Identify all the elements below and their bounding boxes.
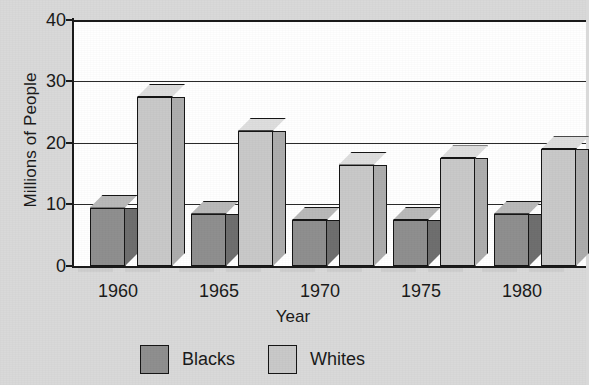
legend-item-whites: Whites — [268, 345, 365, 374]
bar-front-face — [393, 220, 428, 266]
legend-label-blacks: Blacks — [182, 349, 235, 370]
bar-top-face-wrap — [494, 201, 529, 214]
bar-1975-whites — [440, 158, 475, 266]
bar-top-face — [137, 84, 185, 97]
x-tick-label-1970: 1970 — [275, 281, 365, 302]
bar-1980-blacks — [494, 214, 529, 266]
bar-1965-whites — [238, 131, 273, 266]
x-tick-label-1960: 1960 — [73, 281, 163, 302]
bar-top-face-wrap — [393, 207, 428, 220]
chart-legend: Blacks Whites — [0, 345, 586, 385]
bar-top-face — [541, 136, 589, 149]
legend-item-blacks: Blacks — [140, 345, 235, 374]
bar-top-face-wrap — [191, 201, 226, 214]
bar-1970-blacks — [292, 220, 327, 266]
bar-1975-blacks — [393, 220, 428, 266]
bar-top-face — [393, 207, 441, 220]
bar-side-face — [374, 165, 387, 266]
bar-side-face — [273, 131, 286, 266]
bar-side-face — [576, 149, 589, 266]
bar-front-face — [494, 214, 529, 266]
bar-top-face-wrap — [339, 152, 374, 165]
bar-top-face-wrap — [541, 136, 576, 149]
bar-front-face — [292, 220, 327, 266]
legend-label-whites: Whites — [310, 349, 365, 370]
bar-front-face — [541, 149, 576, 266]
x-axis-title: Year — [0, 307, 586, 327]
bar-top-face-wrap — [238, 118, 273, 131]
bar-front-face — [238, 131, 273, 266]
bar-top-face-wrap — [90, 195, 125, 208]
bar-top-face — [339, 152, 387, 165]
legend-swatch-blacks — [140, 345, 169, 374]
bar-top-face — [90, 195, 138, 208]
bar-top-face — [238, 118, 286, 131]
x-tick-label-1980: 1980 — [477, 281, 567, 302]
bar-top-face-wrap — [292, 207, 327, 220]
bar-front-face — [90, 208, 125, 266]
bar-front-face — [440, 158, 475, 266]
x-tick-label-1975: 1975 — [376, 281, 466, 302]
bar-1960-whites — [137, 97, 172, 266]
bar-top-face — [494, 201, 542, 214]
bar-1960-blacks — [90, 208, 125, 266]
bar-top-face — [292, 207, 340, 220]
bar-front-face — [339, 165, 374, 266]
bar-top-face-wrap — [440, 145, 475, 158]
x-tick-label-1965: 1965 — [174, 281, 264, 302]
legend-swatch-whites — [268, 345, 297, 374]
bar-top-face-wrap — [137, 84, 172, 97]
bar-1970-whites — [339, 165, 374, 266]
bar-top-face — [440, 145, 488, 158]
bar-side-face — [172, 97, 185, 266]
bar-1965-blacks — [191, 214, 226, 266]
bar-front-face — [191, 214, 226, 266]
bar-front-face — [137, 97, 172, 266]
bar-1980-whites — [541, 149, 576, 266]
bar-side-face — [475, 158, 488, 266]
bar-top-face — [191, 201, 239, 214]
